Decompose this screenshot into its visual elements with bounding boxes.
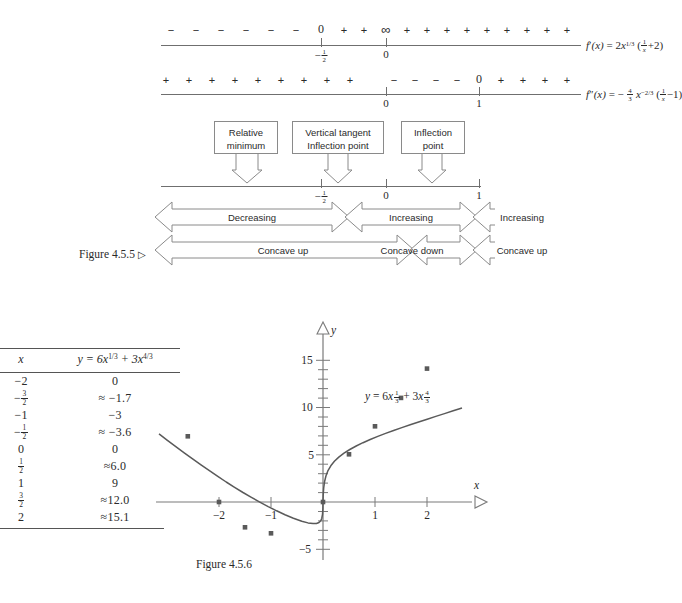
callout-line-2: Inflection point <box>307 140 368 151</box>
band-label-concave-up-left: Concave up <box>258 245 309 256</box>
cell-x: 0 <box>0 441 50 457</box>
cell-x: −12 <box>0 423 50 441</box>
sign-plus: + <box>520 74 526 86</box>
sign-plus: + <box>542 74 548 86</box>
function-graph: y x 15 10 5 −5 −2 −1 1 2 y = 6x13 + 3x43 <box>150 312 500 567</box>
x-axis-label: x <box>474 479 479 491</box>
first-derivative-sign-chart: − − − − − − 0 + + ∞ + + + + + + + + + −1… <box>0 0 612 60</box>
cell-x: −2 <box>0 373 50 390</box>
callout-line-1: Inflection <box>414 127 452 138</box>
sign-plus: + <box>404 24 410 36</box>
sign-zero-marker: 0 <box>318 22 324 37</box>
x-tick-label-2: 2 <box>424 509 430 521</box>
table-bottom-rule <box>0 528 164 529</box>
callout-line-2: minimum <box>227 140 266 151</box>
sign-minus: − <box>391 74 397 86</box>
callout-vertical-tangent-inflection: Vertical tangent Inflection point <box>292 121 384 154</box>
tick-mark <box>386 179 387 188</box>
sign-plus: + <box>163 74 169 86</box>
sign-plus: + <box>444 24 450 36</box>
first-derivative-formula: f′(x) = 2x1/3 (1x+2) <box>586 38 663 53</box>
sign-plus: + <box>301 74 307 86</box>
sign-infinity-marker: ∞ <box>381 22 390 37</box>
sign-minus: − <box>243 24 249 36</box>
callout-line-2: point <box>423 140 444 151</box>
figure-455-caption-text: Figure 4.5.5 <box>79 248 135 260</box>
sign-plus: + <box>464 24 470 36</box>
band-label-concave-down: Concave down <box>381 245 444 256</box>
tick-mark <box>479 87 480 96</box>
sign-plus: + <box>504 24 510 36</box>
figure-456-caption: Figure 4.5.6 <box>196 558 252 570</box>
tick-mark <box>386 87 387 96</box>
cell-x: −32 <box>0 389 50 407</box>
y-axis-label: y <box>331 324 336 336</box>
sign-plus: + <box>424 24 430 36</box>
cell-x: 32 <box>0 492 50 510</box>
monotonicity-bands <box>150 200 495 234</box>
callout-line-1: Relative <box>229 127 263 138</box>
sign-plus: + <box>186 74 192 86</box>
sign-plus: + <box>544 24 550 36</box>
sign-minus: − <box>168 24 174 36</box>
y-tick-label-15: 15 <box>301 354 313 366</box>
sign-minus: − <box>412 74 418 86</box>
sign-plus: + <box>564 74 570 86</box>
cell-x: 12 <box>0 458 50 476</box>
tick-label-zero: 0 <box>383 97 389 109</box>
figure-455-caption: Figure 4.5.5 ▷ <box>79 248 146 260</box>
sign-plus: + <box>361 24 367 36</box>
band-label-decreasing: Decreasing <box>228 212 276 223</box>
tick-mark <box>386 38 387 47</box>
x-tick-label-neg2: −2 <box>213 509 225 521</box>
callout-inflection-point: Inflection point <box>401 121 465 154</box>
sign-minus: − <box>268 24 274 36</box>
number-line <box>161 94 581 95</box>
tick-label-one: 1 <box>476 97 482 109</box>
cell-x: 1 <box>0 475 50 491</box>
sign-plus: + <box>498 74 504 86</box>
cell-x: −1 <box>0 407 50 423</box>
band-label-concave-up-right: Concave up <box>497 245 548 256</box>
sign-plus: + <box>341 24 347 36</box>
y-tick-label-10: 10 <box>301 401 313 413</box>
band-label-increasing-mid: Increasing <box>389 212 433 223</box>
graph-svg <box>150 312 500 567</box>
x-tick-label-neg1: −1 <box>265 509 277 521</box>
figure-456-caption-text: Figure 4.5.6 <box>196 558 252 570</box>
sign-minus: − <box>454 74 460 86</box>
number-line <box>161 45 581 46</box>
x-tick-label-1: 1 <box>372 509 378 521</box>
column-header-x: x <box>0 349 50 373</box>
callout-relative-minimum: Relative minimum <box>214 121 278 154</box>
cell-x: 2 <box>0 509 50 525</box>
sign-plus: + <box>484 24 490 36</box>
curve-equation-label: y = 6x13 + 3x43 <box>365 390 431 406</box>
sign-minus: − <box>193 24 199 36</box>
caption-triangle-icon: ▷ <box>138 249 146 260</box>
sign-minus: − <box>433 74 439 86</box>
tick-mark <box>321 38 322 47</box>
sign-plus: + <box>324 74 330 86</box>
y-tick-label-5: 5 <box>308 449 314 461</box>
second-derivative-sign-chart: + + + + + + + + + − − − − 0 + + + + 0 1 … <box>0 58 612 118</box>
sign-plus: + <box>524 24 530 36</box>
y-tick-label-neg5: −5 <box>299 543 311 555</box>
tick-mark <box>479 179 480 188</box>
sign-plus: + <box>347 74 353 86</box>
band-label-increasing-right: Increasing <box>500 212 544 223</box>
sign-plus: + <box>232 74 238 86</box>
sign-minus: − <box>293 24 299 36</box>
tick-mark <box>321 179 322 188</box>
second-derivative-formula: f″(x) = − 43 x−2/3 (1x−1) <box>586 87 682 102</box>
callout-line-1: Vertical tangent <box>305 127 371 138</box>
sign-plus: + <box>209 74 215 86</box>
sign-plus: + <box>278 74 284 86</box>
sign-plus: + <box>255 74 261 86</box>
sign-minus: − <box>218 24 224 36</box>
sign-zero-marker: 0 <box>476 72 482 87</box>
sign-plus: + <box>564 24 570 36</box>
